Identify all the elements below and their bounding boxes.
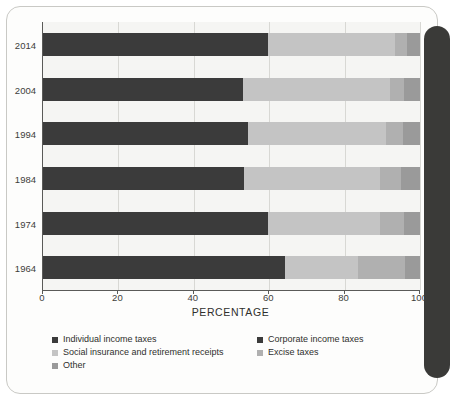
x-axis-title: PERCENTAGE — [42, 306, 419, 318]
bar-row — [43, 122, 420, 145]
legend-label: Social insurance and retirement receipts — [63, 347, 224, 358]
legend-swatch-icon — [52, 363, 58, 369]
bar-segment — [243, 78, 390, 101]
bar-segment — [401, 167, 420, 190]
gridline — [194, 22, 195, 290]
bar-segment — [380, 212, 404, 235]
bar-segment — [213, 212, 268, 235]
y-axis-tick-label: 2004 — [0, 85, 36, 96]
y-axis-tick-label: 1964 — [0, 263, 36, 274]
bar-segment — [407, 33, 420, 56]
bar-row — [43, 212, 420, 235]
bar-row — [43, 256, 420, 279]
bar-segment — [403, 122, 420, 145]
legend-label: Individual income taxes — [63, 334, 157, 345]
gridline — [118, 22, 119, 290]
gridline — [420, 22, 421, 290]
legend-item-excise-taxes: Excise taxes — [257, 347, 319, 358]
bar-segment — [386, 122, 403, 145]
gridline — [345, 22, 346, 290]
bar-segment — [268, 212, 380, 235]
legend-swatch-icon — [257, 337, 263, 343]
bar-segment — [212, 167, 244, 190]
legend-label: Corporate income taxes — [268, 334, 364, 345]
legend-row-1: Individual income taxes Corporate income… — [52, 334, 412, 347]
chart-legend: Individual income taxes Corporate income… — [52, 334, 412, 373]
y-axis-tick-label: 1984 — [0, 174, 36, 185]
legend-label: Other — [63, 360, 86, 371]
stacked-bar-chart: 201420041994198419741964 020406080100 PE… — [0, 0, 452, 402]
legend-swatch-icon — [52, 350, 58, 356]
plot-area — [42, 22, 420, 291]
legend-label: Excise taxes — [268, 347, 319, 358]
legend-swatch-icon — [257, 350, 263, 356]
legend-row-3: Other — [52, 360, 412, 373]
bar-segment — [395, 33, 407, 56]
gridline — [269, 22, 270, 290]
x-axis-tick-label: 40 — [178, 292, 208, 303]
bar-segment — [43, 78, 205, 101]
y-axis-tick-label: 2014 — [0, 40, 36, 51]
bar-segment — [43, 167, 212, 190]
legend-row-2: Social insurance and retirement receipts… — [52, 347, 412, 360]
x-axis-tick-label: 60 — [253, 292, 283, 303]
y-axis-tick-label: 1974 — [0, 219, 36, 230]
x-axis-tick-label: 0 — [27, 292, 57, 303]
bar-segment — [43, 212, 213, 235]
bar-segment — [390, 78, 404, 101]
legend-item-individual-income-taxes: Individual income taxes — [52, 334, 157, 345]
bar-segment — [404, 212, 420, 235]
bar-segment — [205, 78, 243, 101]
legend-item-other: Other — [52, 360, 86, 371]
x-axis-tick-label: 80 — [329, 292, 359, 303]
x-axis-tick-label: 20 — [102, 292, 132, 303]
legend-item-social-insurance-and-retirement-receipts: Social insurance and retirement receipts — [52, 347, 224, 358]
bar-segment — [43, 122, 205, 145]
bar-segment — [43, 256, 206, 279]
bar-segment — [244, 167, 380, 190]
x-axis-tick-label: 100 — [404, 292, 434, 303]
legend-swatch-icon — [52, 337, 58, 343]
bar-segment — [43, 33, 228, 56]
y-axis-tick-label: 1994 — [0, 129, 36, 140]
bar-segment — [405, 256, 420, 279]
bar-segment — [205, 122, 247, 145]
bar-row — [43, 33, 420, 56]
bar-segment — [268, 33, 396, 56]
bar-segment — [228, 33, 268, 56]
bar-row — [43, 167, 420, 190]
bar-segment — [248, 122, 386, 145]
legend-item-corporate-income-taxes: Corporate income taxes — [257, 334, 364, 345]
bar-segment — [206, 256, 285, 279]
bar-segment — [380, 167, 401, 190]
bar-segment — [285, 256, 359, 279]
bar-row — [43, 78, 420, 101]
bar-segment — [358, 256, 404, 279]
bar-segment — [404, 78, 420, 101]
